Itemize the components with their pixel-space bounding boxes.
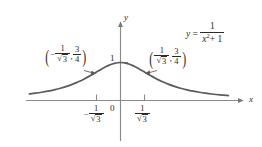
left-x-radicand: 3	[62, 54, 68, 64]
right-y-fraction: 34	[172, 47, 180, 65]
equation-relation: =	[193, 29, 198, 39]
y-axis-label: y	[124, 13, 128, 22]
x-tick-label-negative: −1√3	[84, 104, 104, 123]
sqrt-icon: √3	[57, 54, 68, 64]
radical-symbol: √	[156, 56, 161, 65]
sqrt-icon: √3	[137, 114, 148, 124]
equation-fraction: 1 x2+ 1	[200, 22, 224, 45]
x-tick-positive-radicand: 3	[142, 114, 148, 124]
left-y-denominator: 4	[73, 55, 81, 64]
equation-lhs: y	[186, 29, 190, 39]
figure-canvas: y = 1 x2+ 1 (−1√3,34) (1√3,34) −1√3 1√3 …	[0, 0, 262, 147]
sqrt-icon: √3	[91, 114, 102, 124]
left-x-fraction: 1√3	[55, 44, 70, 63]
equation-numerator: 1	[200, 22, 224, 33]
x-tick-label-positive: 1√3	[135, 104, 150, 123]
ordered-pair-right: (1√3,34)	[148, 46, 187, 68]
sqrt-icon: √3	[156, 56, 167, 66]
x-tick-positive-denominator: √3	[135, 114, 150, 124]
radical-symbol: √	[137, 114, 142, 123]
radical-symbol: √	[57, 54, 62, 63]
x-tick-negative-radicand: 3	[95, 114, 101, 124]
equation-label: y = 1 x2+ 1	[186, 22, 224, 45]
x-axis-label: x	[249, 95, 253, 104]
leader-line-right	[146, 71, 157, 74]
ordered-pair-right-inner: 1√3,34	[154, 46, 180, 65]
right-x-denominator: √3	[154, 56, 169, 66]
paren-open-right: (	[149, 49, 153, 68]
ordered-pair-left: (−1√3,34)	[44, 44, 88, 66]
paren-open-left: (	[45, 47, 49, 66]
x-tick-positive-fraction: 1√3	[135, 104, 150, 123]
radical-symbol: √	[91, 114, 96, 123]
function-curve	[29, 63, 228, 96]
leader-line-left	[84, 71, 96, 74]
right-y-denominator: 4	[172, 57, 180, 66]
paren-close-right: )	[182, 49, 186, 68]
right-x-fraction: 1√3	[154, 46, 169, 65]
left-x-denominator: √3	[55, 54, 70, 64]
y-tick-label-one: 1	[110, 54, 115, 63]
paren-close-left: )	[83, 47, 87, 66]
right-x-radicand: 3	[161, 56, 167, 66]
x-tick-negative-denominator: √3	[89, 114, 104, 124]
inflection-point-right-label: (1√3,34)	[148, 46, 187, 68]
origin-label: 0	[110, 104, 115, 113]
equation-denominator-tail: + 1	[210, 34, 222, 44]
ordered-pair-left-inner: −1√3,34	[50, 44, 81, 63]
left-y-fraction: 34	[73, 45, 81, 63]
x-tick-negative-fraction: 1√3	[89, 104, 104, 123]
inflection-point-left-label: (−1√3,34)	[44, 44, 88, 66]
equation-denominator: x2+ 1	[200, 33, 224, 45]
